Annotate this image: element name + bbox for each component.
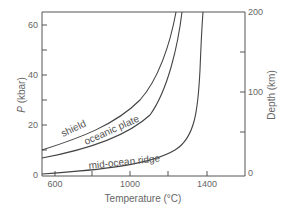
y-right-tick-100: 100 bbox=[248, 87, 263, 97]
x-axis-ticks bbox=[55, 171, 207, 176]
y-right-axis-ticks bbox=[240, 52, 245, 132]
label-oceanic-plate: oceanic plate bbox=[82, 113, 141, 147]
y-tick-20: 20 bbox=[28, 120, 38, 130]
x-axis-label: Temperature (°C) bbox=[105, 193, 182, 204]
label-mid-ocean-ridge: mid-ocean ridge bbox=[88, 153, 161, 171]
y-right-axis-label: Depth (km) bbox=[266, 70, 277, 119]
geotherm-chart: 60 40 20 0 200 100 0 600 1000 1400 Tempe… bbox=[0, 0, 291, 209]
y-right-tick-200: 200 bbox=[248, 7, 263, 17]
y-axis-unit: (kbar) bbox=[16, 77, 27, 106]
x-tick-1400: 1400 bbox=[197, 179, 217, 189]
curve-mid-ocean-ridge bbox=[42, 12, 203, 174]
x-tick-1000: 1000 bbox=[120, 179, 140, 189]
x-tick-600: 600 bbox=[47, 179, 62, 189]
y-tick-40: 40 bbox=[28, 70, 38, 80]
y-axis-ticks bbox=[42, 25, 47, 150]
y-tick-0: 0 bbox=[33, 170, 38, 180]
y-axis-label: P (kbar) bbox=[16, 77, 27, 113]
y-tick-60: 60 bbox=[28, 20, 38, 30]
y-right-tick-0: 0 bbox=[248, 168, 253, 178]
